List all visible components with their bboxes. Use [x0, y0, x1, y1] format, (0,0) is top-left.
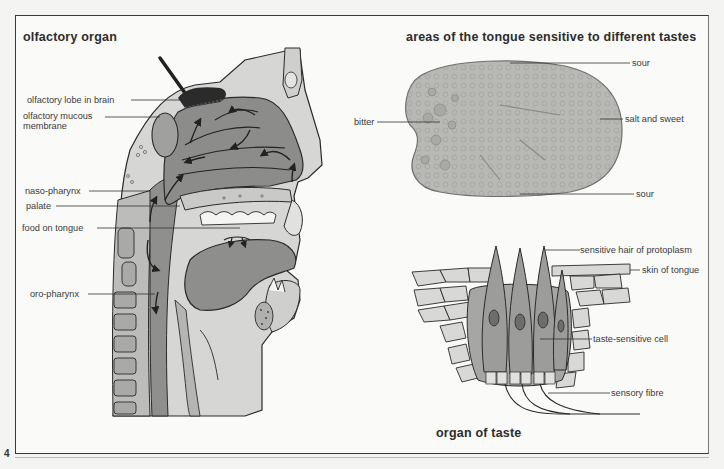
label-sensitive-hair: sensitive hair of protoplasm [580, 245, 692, 255]
label-sensory-fibre: sensory fibre [611, 388, 664, 398]
label-sour-top: sour [632, 58, 650, 68]
head-section-diagram [113, 48, 322, 416]
label-bitter: bitter [354, 117, 374, 127]
label-skin-of-tongue: skin of tongue [642, 265, 699, 275]
label-food-on-tongue: food on tongue [22, 223, 83, 233]
taste-organ-diagram [412, 246, 640, 414]
olfactory-organ-title: olfactory organ [23, 30, 117, 44]
label-palate: palate [26, 201, 51, 211]
label-naso-pharynx: naso-pharynx [25, 186, 81, 196]
taste-organ-title: organ of taste [436, 426, 521, 440]
label-olfactory-lobe: olfactory lobe in brain [27, 95, 114, 105]
label-salt-and-sweet: salt and sweet [625, 114, 684, 124]
label-olfactory-membrane: membrane [23, 121, 67, 131]
tongue-map-diagram [406, 61, 622, 197]
label-taste-sensitive-cell: taste-sensitive cell [593, 334, 668, 344]
label-sour-bottom: sour [636, 189, 654, 199]
illustrations [0, 0, 724, 469]
label-olfactory-mucous: olfactory mucous [23, 111, 92, 121]
label-oro-pharynx: oro-pharynx [30, 289, 79, 299]
tongue-map-title: areas of the tongue sensitive to differe… [406, 30, 696, 44]
